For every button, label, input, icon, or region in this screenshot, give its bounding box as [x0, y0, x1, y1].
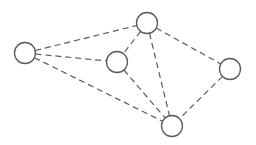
node-bottom [162, 116, 183, 137]
network-graph [0, 0, 256, 145]
edge-left-top [35, 26, 137, 51]
edge-top-middle [123, 31, 140, 53]
node-left [15, 43, 36, 64]
edge-right-bottom [179, 76, 222, 118]
node-right [220, 59, 241, 80]
node-middle [107, 52, 128, 73]
node-top [137, 13, 158, 34]
edge-left-middle [35, 54, 106, 61]
edge-middle-bottom [124, 70, 165, 118]
edge-top-right [156, 28, 221, 64]
edge-left-bottom [34, 58, 162, 122]
edge-layer [34, 26, 222, 122]
